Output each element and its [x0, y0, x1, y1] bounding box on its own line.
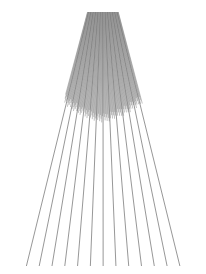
long-ray: [26, 12, 88, 266]
long-ray: [117, 12, 180, 266]
long-ray: [39, 12, 91, 266]
long-ray: [113, 12, 155, 266]
long-ray: [115, 12, 167, 266]
artwork-canvas: [0, 0, 206, 274]
radial-ray-field: [0, 0, 206, 274]
long-ray: [52, 12, 94, 266]
